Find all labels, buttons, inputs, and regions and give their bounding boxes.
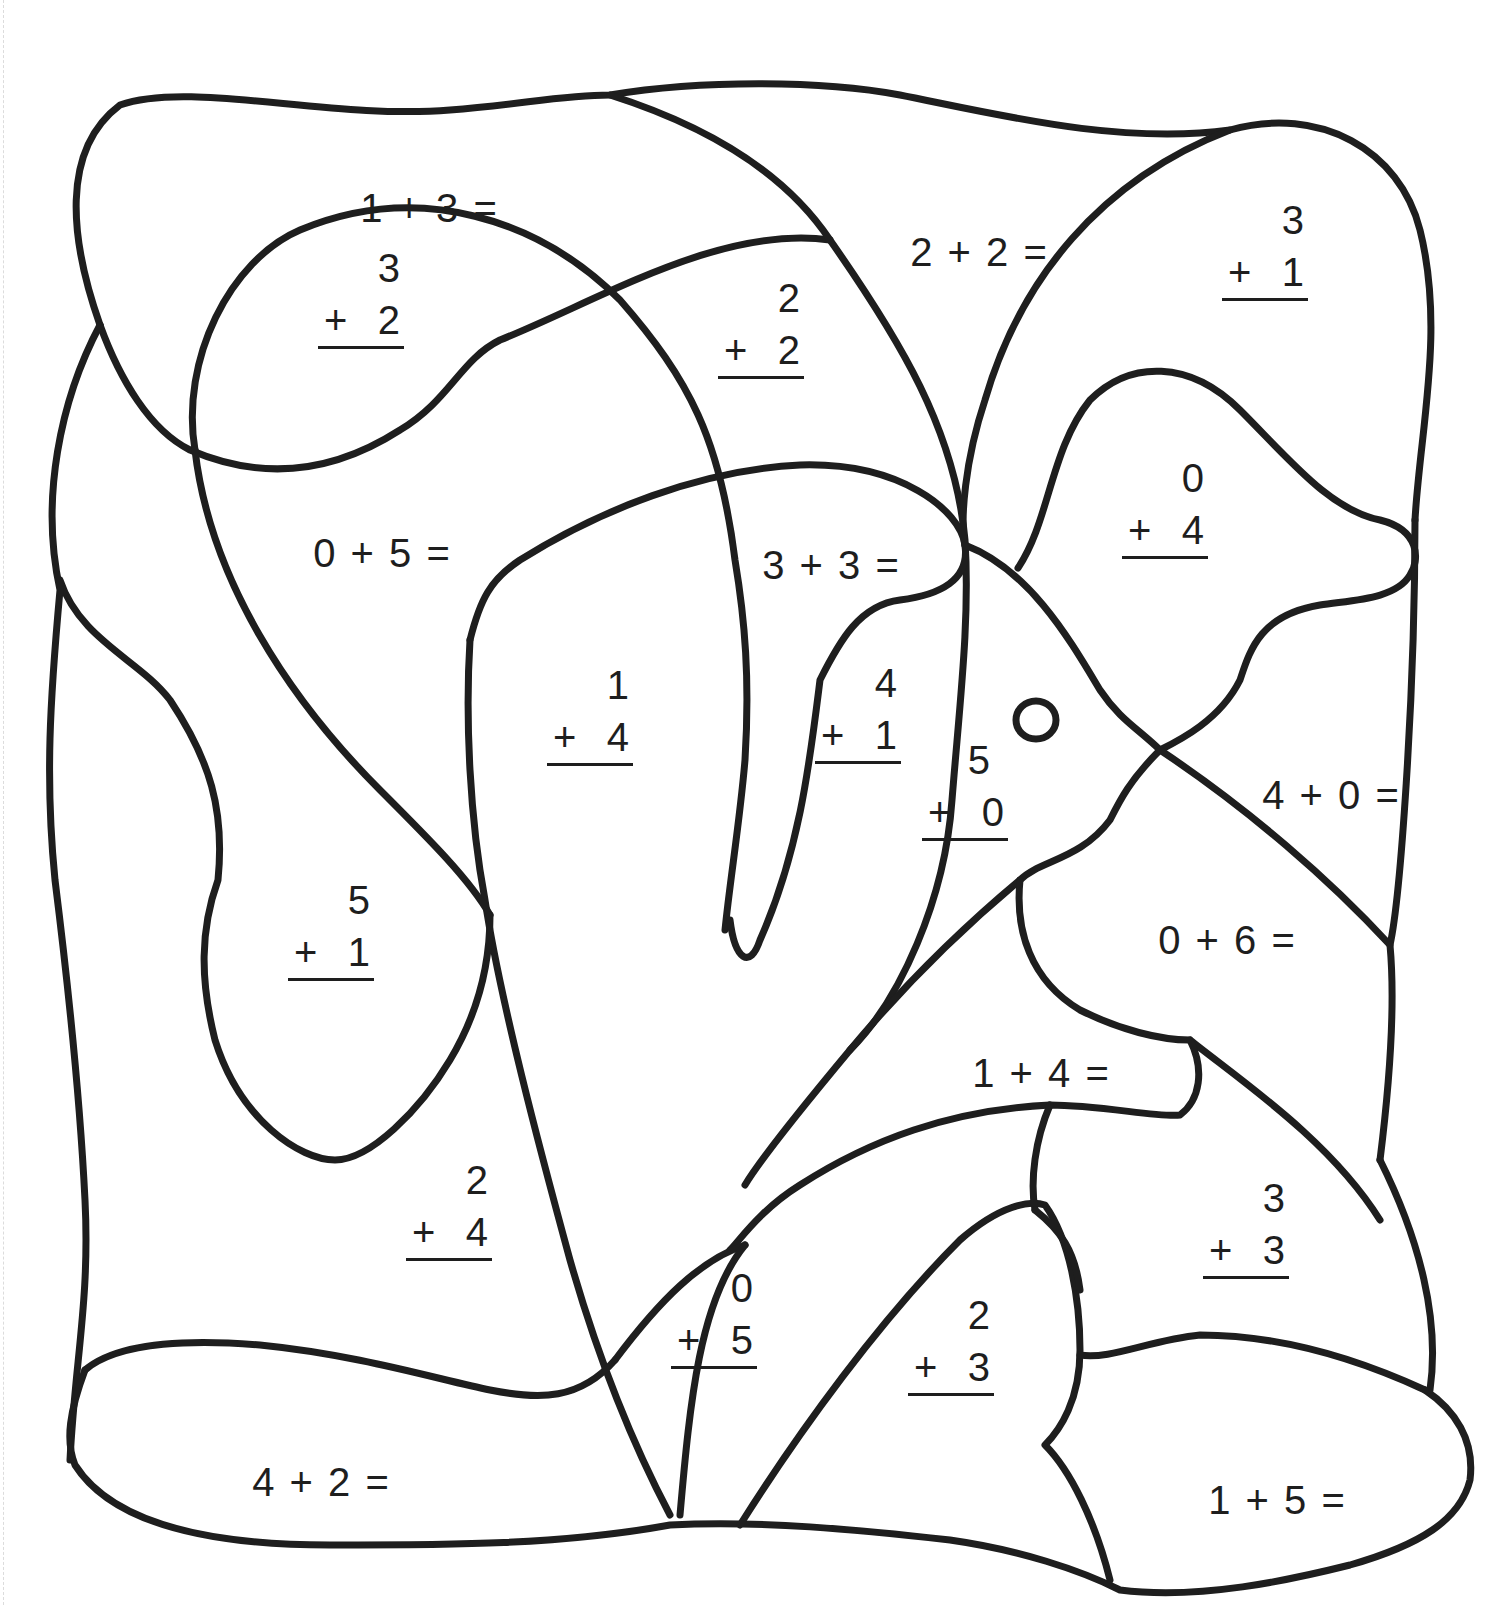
plus-sign: + — [406, 1212, 435, 1252]
equation-text: 3 + 3 = — [762, 543, 899, 587]
addend-top: 5 — [922, 740, 1008, 792]
plus-sign: + — [922, 792, 951, 832]
plus-sign: + — [1222, 252, 1251, 292]
region-outline — [1018, 371, 1416, 750]
problem-0-plus-5-vertical: 0 +5 — [671, 1268, 757, 1369]
addend-bottom: 1 — [348, 930, 370, 974]
problem-2-plus-2-vertical: 2 +2 — [718, 278, 804, 379]
problem-3-plus-3-vertical: 3 +3 — [1203, 1178, 1289, 1279]
addend-bottom: 2 — [378, 298, 400, 342]
addend-bottom-row: +1 — [815, 715, 901, 764]
plus-sign: + — [547, 717, 576, 757]
problem-3-plus-1: 3 +1 — [1222, 200, 1308, 301]
equation-text: 4 + 0 = — [1262, 773, 1399, 817]
region-outline — [1080, 1335, 1425, 1390]
addend-top: 0 — [671, 1268, 757, 1320]
addend-bottom-row: +4 — [1122, 510, 1208, 559]
addend-top: 3 — [1203, 1178, 1289, 1230]
problem-2-plus-4: 2 +4 — [406, 1160, 492, 1261]
addend-top: 2 — [406, 1160, 492, 1212]
equation-text: 0 + 6 = — [1158, 918, 1295, 962]
problem-1-plus-4-horizontal: 1 + 4 = — [942, 1013, 1109, 1093]
addend-bottom-row: +3 — [908, 1347, 994, 1396]
addend-top: 1 — [547, 665, 633, 717]
addend-bottom-row: +4 — [406, 1212, 492, 1261]
addend-bottom-row: +2 — [718, 330, 804, 379]
plus-sign: + — [1122, 510, 1151, 550]
addend-bottom-row: +1 — [288, 932, 374, 981]
addend-bottom: 3 — [1263, 1228, 1285, 1272]
region-outline — [85, 1343, 615, 1396]
addend-bottom: 5 — [731, 1318, 753, 1362]
plus-sign: + — [908, 1347, 937, 1387]
problem-4-plus-2: 4 + 2 = — [222, 1422, 389, 1502]
plus-sign: + — [815, 715, 844, 755]
plus-sign: + — [288, 932, 317, 972]
addend-bottom-row: +0 — [922, 792, 1008, 841]
addend-bottom-row: +4 — [547, 717, 633, 766]
eye-circle — [1016, 701, 1056, 739]
problem-0-plus-6: 0 + 6 = — [1128, 880, 1295, 960]
problem-4-plus-0: 4 + 0 = — [1232, 735, 1399, 815]
equation-text: 1 + 3 = — [360, 186, 497, 230]
addend-top: 2 — [908, 1295, 994, 1347]
problem-5-plus-0: 5 +0 — [922, 740, 1008, 841]
addend-bottom: 4 — [466, 1210, 488, 1254]
problem-2-plus-3: 2 +3 — [908, 1295, 994, 1396]
addend-bottom-row: +3 — [1203, 1230, 1289, 1279]
problem-0-plus-5: 0 + 5 = — [283, 493, 450, 573]
addend-top: 2 — [718, 278, 804, 330]
addend-bottom: 1 — [1282, 250, 1304, 294]
equation-text: 2 + 2 = — [910, 230, 1047, 274]
addend-bottom: 0 — [982, 790, 1004, 834]
problem-0-plus-4: 0 +4 — [1122, 458, 1208, 559]
region-outline — [1033, 1105, 1050, 1210]
plus-sign: + — [671, 1320, 700, 1360]
addend-bottom-row: +2 — [318, 300, 404, 349]
region-outline — [192, 208, 747, 930]
region-outline — [1380, 945, 1392, 1160]
problem-4-plus-1: 4 +1 — [815, 663, 901, 764]
plus-sign: + — [1203, 1230, 1232, 1270]
problem-5-plus-1: 5 +1 — [288, 880, 374, 981]
problem-3-plus-3-horizontal: 3 + 3 = — [732, 505, 899, 585]
addend-top: 3 — [318, 248, 404, 300]
equation-text: 1 + 5 = — [1208, 1478, 1345, 1522]
addend-top: 3 — [1222, 200, 1308, 252]
problem-1-plus-4: 1 +4 — [547, 665, 633, 766]
problem-1-plus-3: 1 + 3 = — [330, 148, 497, 228]
plus-sign: + — [718, 330, 747, 370]
equation-text: 0 + 5 = — [313, 531, 450, 575]
region-outline — [50, 325, 100, 1460]
addend-top: 0 — [1122, 458, 1208, 510]
addend-bottom-row: +5 — [671, 1320, 757, 1369]
problem-2-plus-2-horizontal: 2 + 2 = — [880, 192, 1047, 272]
addend-top: 4 — [815, 663, 901, 715]
addend-bottom: 4 — [1182, 508, 1204, 552]
addend-bottom: 3 — [968, 1345, 990, 1389]
problem-3-plus-2: 3 +2 — [318, 248, 404, 349]
equation-text: 1 + 4 = — [972, 1051, 1109, 1095]
equation-text: 4 + 2 = — [252, 1460, 389, 1504]
addend-bottom: 4 — [607, 715, 629, 759]
region-outline — [1380, 1160, 1433, 1390]
region-outline — [468, 640, 670, 1515]
addend-bottom: 1 — [875, 713, 897, 757]
problem-1-plus-5: 1 + 5 = — [1178, 1440, 1345, 1520]
plus-sign: + — [318, 300, 347, 340]
addend-bottom-row: +1 — [1222, 252, 1308, 301]
addend-top: 5 — [288, 880, 374, 932]
addend-bottom: 2 — [778, 328, 800, 372]
